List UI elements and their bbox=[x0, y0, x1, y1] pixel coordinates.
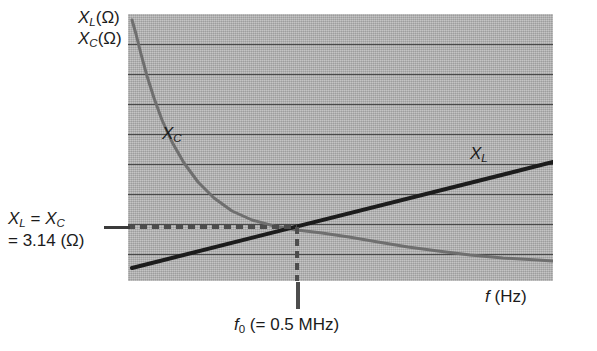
f0-frequency-label: f0 (= 0.5 MHz) bbox=[234, 315, 339, 335]
resonance-numeric-line: = 3.14 (Ω) bbox=[8, 231, 85, 250]
resonance-label-leader-line bbox=[104, 226, 130, 229]
y-axis-label-xc: XC(Ω) bbox=[78, 29, 122, 49]
y-axis-label-xl: XL(Ω) bbox=[78, 8, 122, 28]
x-axis-label: f (Hz) bbox=[485, 287, 527, 306]
xc-curve-label: XC bbox=[162, 124, 182, 144]
figure-root: XL(Ω) XC(Ω) XL = XC = 3.14 (Ω) XC XL f0 … bbox=[0, 0, 597, 351]
xc-curve bbox=[132, 20, 553, 261]
f0-axis-tick bbox=[296, 282, 300, 309]
resonance-equality-line: XL = XC bbox=[8, 209, 85, 229]
curve-overlay bbox=[128, 14, 553, 281]
plot-area bbox=[128, 14, 553, 281]
xl-curve-label: XL bbox=[470, 144, 488, 164]
resonance-value-label: XL = XC = 3.14 (Ω) bbox=[8, 209, 85, 250]
y-axis-label: XL(Ω) XC(Ω) bbox=[78, 8, 122, 51]
